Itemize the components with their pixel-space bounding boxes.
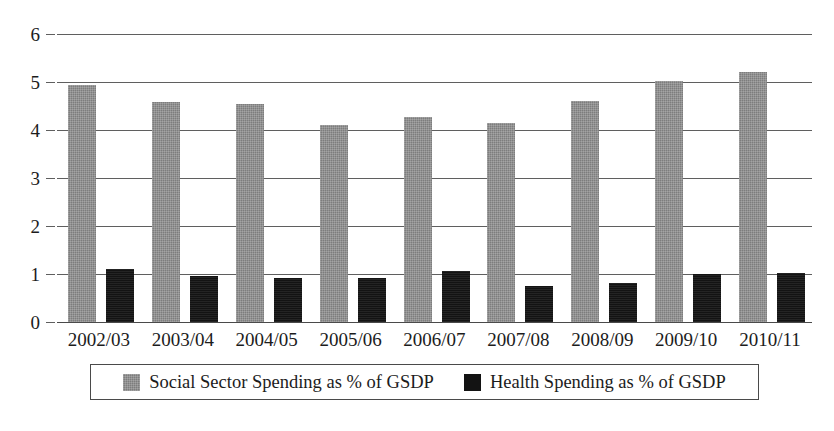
x-tick-label: 2006/07 [393,330,477,349]
bar [68,85,96,322]
bar [777,273,805,322]
bar [525,286,553,322]
bar [320,125,348,322]
bar [487,123,515,322]
y-tick-mark-2 [46,226,55,227]
legend-label-health: Health Spending as % of GSDP [490,373,726,392]
bar [571,101,599,322]
bar [358,278,386,322]
y-tick-mark-6 [46,34,55,35]
gridline-0 [57,322,812,323]
bar-group [152,34,218,322]
bar-group [68,34,134,322]
bar-group [571,34,637,322]
gray-swatch-icon [123,374,140,391]
y-tick-label-0: 0 [31,313,41,332]
bar-group [236,34,302,322]
chart-legend: Social Sector Spending as % of GSDP Heal… [90,364,759,400]
y-tick-label-6: 6 [31,25,41,44]
bar [693,274,721,322]
y-tick-label-4: 4 [31,121,41,140]
bar [152,102,180,322]
legend-label-social: Social Sector Spending as % of GSDP [149,373,434,392]
x-tick-label: 2002/03 [57,330,141,349]
bar-group [320,34,386,322]
y-tick-mark-1 [46,274,55,275]
legend-entry-social: Social Sector Spending as % of GSDP [123,373,434,392]
bar-chart: 0123456 2002/032003/042004/052005/062006… [0,0,834,431]
plot-area: 0123456 [57,34,812,322]
bar-group [487,34,553,322]
y-tick-label-2: 2 [31,217,41,236]
bar [609,283,637,322]
bar [739,72,767,322]
bar-group [739,34,805,322]
y-tick-mark-0 [46,322,55,323]
x-tick-label: 2004/05 [225,330,309,349]
bar [655,81,683,322]
bar-group [655,34,721,322]
black-swatch-icon [464,374,481,391]
x-tick-label: 2003/04 [141,330,225,349]
x-tick-label: 2009/10 [644,330,728,349]
y-tick-label-5: 5 [31,73,41,92]
legend-entry-health: Health Spending as % of GSDP [464,373,726,392]
bar [274,278,302,322]
y-tick-mark-5 [46,82,55,83]
y-tick-mark-3 [46,178,55,179]
y-tick-label-1: 1 [31,265,41,284]
bar [404,117,432,322]
bar [236,104,264,322]
x-tick-label: 2010/11 [728,330,812,349]
x-tick-label: 2005/06 [309,330,393,349]
x-tick-label: 2007/08 [476,330,560,349]
y-tick-label-3: 3 [31,169,41,188]
bar [442,271,470,322]
bar [106,269,134,322]
bar [190,276,218,322]
bar-group [404,34,470,322]
x-tick-label: 2008/09 [560,330,644,349]
y-tick-mark-4 [46,130,55,131]
